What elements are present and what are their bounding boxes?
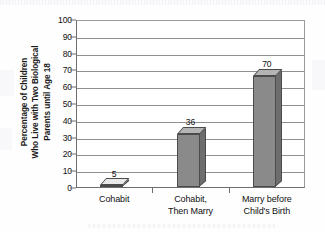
bar-front-face [100,185,123,187]
y-tick-label: 20 [46,149,72,159]
scan-artifact-left-2 [0,128,12,150]
gridline [77,55,304,56]
x-axis-label-line: Marry before [221,194,313,206]
bar-front-face [253,76,276,187]
scan-artifact-right [312,60,325,90]
bar-value-label: 5 [100,169,128,179]
y-tick-label: 0 [46,183,72,193]
bar-side-face [199,127,206,187]
x-tick-mark [152,188,153,193]
bar [177,127,200,187]
bar [100,179,123,187]
y-tick-label: 70 [46,65,72,75]
bar-chart: Percentage of Children Who Live with Two… [0,0,325,232]
y-axis-title-line-1: Percentage of Children [19,45,30,158]
x-axis-label-line: Child's Birth [221,206,313,218]
y-tick-label: 50 [46,99,72,109]
y-tick-label: 100 [46,15,72,25]
y-tick-label: 60 [46,82,72,92]
bar [253,69,276,187]
bar-value-label: 70 [253,59,281,69]
gridline [77,38,304,39]
x-tick-mark [229,188,230,193]
y-tick-label: 90 [46,32,72,42]
bar-side-face [275,70,282,187]
y-axis-title-line-2: Who Live with Two Biological [30,45,41,158]
y-tick-label: 30 [46,133,72,143]
scan-artifact-left [0,70,14,96]
bar-front-face [177,134,200,187]
scan-artifact-bottom [88,224,278,228]
y-tick-label: 40 [46,116,72,126]
y-tick-label: 10 [46,166,72,176]
y-tick-label: 80 [46,49,72,59]
bar-value-label: 36 [177,117,205,127]
scan-artifact-top [0,0,325,5]
plot-area [76,20,305,188]
x-axis-label: Marry beforeChild's Birth [221,194,313,217]
